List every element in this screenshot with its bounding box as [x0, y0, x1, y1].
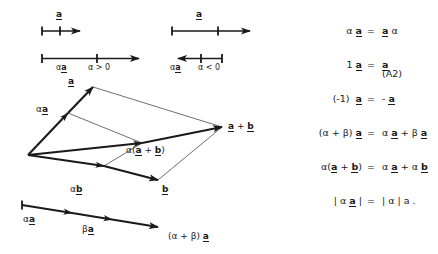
- equation-4-lhs: (α + β) a: [258, 128, 362, 139]
- equation-4-equals: =: [364, 128, 378, 138]
- label-a-left-top: a: [56, 10, 62, 20]
- label-alpha-a-right: αa: [170, 64, 181, 73]
- equation-column: α a = a α 1 a = a (-1) a = - a: [300, 26, 438, 231]
- equation-3-lhs: (-1) a: [278, 94, 362, 105]
- label-a-right-top: a: [196, 10, 202, 20]
- axiom-tag: (A2): [382, 68, 402, 79]
- equation-1-lhs: α a: [300, 26, 362, 37]
- label-alpha-positive: α > 0: [88, 64, 110, 72]
- equation-5-equals: =: [364, 162, 378, 172]
- outer-side-b-to-sum: [158, 127, 222, 180]
- vector-alpha-b-segment: [28, 155, 104, 166]
- equation-4-rhs: α a + β a: [382, 128, 427, 139]
- equation-2-lhs: 1 a: [300, 60, 362, 71]
- vector-a-segment: [68, 87, 93, 113]
- equation-6-rhs: | α | a .: [382, 196, 416, 206]
- figure-page: a αa α > 0 a αa α < 0 a αa αb b a + b α(…: [0, 0, 438, 254]
- equation-6-equals: =: [364, 196, 378, 206]
- equation-3-rhs: - a: [382, 94, 395, 105]
- label-alpha-a-parallelogram: αa: [36, 105, 48, 115]
- equation-5-lhs: α(a + b): [260, 162, 362, 173]
- segment-sum-distributive: [112, 220, 158, 228]
- vector-alpha-a-segment: [28, 113, 68, 155]
- label-sum-distributive: (α + β) a: [168, 232, 209, 242]
- segment-beta-a-distributive: [72, 213, 112, 220]
- label-beta-a-distributive: βa: [82, 225, 94, 235]
- equation-1-equals: =: [364, 26, 378, 36]
- scalar-line-right-group: [172, 27, 250, 64]
- label-a-parallelogram: a: [68, 77, 74, 87]
- label-a-plus-b: a + b: [228, 122, 254, 132]
- inner-side-alpha-a-to-alpha-sum: [68, 113, 142, 143]
- label-alpha-a-left: αa: [56, 64, 67, 73]
- label-b-parallelogram: b: [162, 185, 168, 195]
- segment-alpha-a-distributive: [22, 205, 72, 213]
- equation-3-equals: =: [364, 94, 378, 104]
- equation-6-lhs: | α a |: [282, 196, 362, 207]
- scalar-line-left-group: [42, 27, 139, 64]
- label-alpha-b-parallelogram: αb: [70, 185, 82, 195]
- equation-5-rhs: α a + α b: [382, 162, 428, 173]
- equation-2-equals: =: [364, 60, 378, 70]
- vector-b-segment: [104, 166, 158, 180]
- label-alpha-a-distributive: αa: [23, 215, 35, 225]
- parallelogram-group: [28, 87, 222, 180]
- outer-side-a-to-sum: [93, 87, 222, 127]
- label-alpha-negative: α < 0: [198, 64, 220, 72]
- vector-a-plus-b: [142, 127, 222, 143]
- equation-1-rhs: a α: [382, 26, 398, 37]
- label-alpha-a-plus-b: α(a + b): [126, 146, 165, 156]
